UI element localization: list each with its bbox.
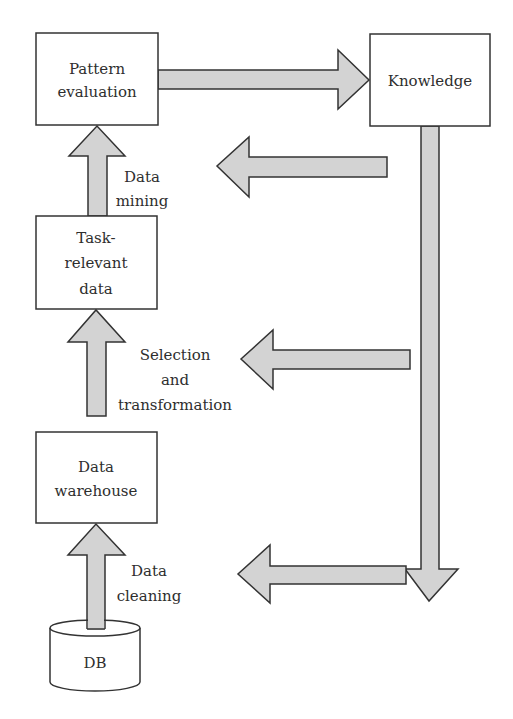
pattern-evaluation-label-1: Pattern [69,60,125,78]
arrow-knowledge-down [405,126,458,601]
arrow-selection-transformation [68,310,125,416]
data-cleaning-label-1: Data [131,562,167,580]
arrow-feedback-3 [238,545,406,603]
data-cleaning-label-2: cleaning [117,587,182,605]
arrow-data-cleaning [68,524,125,629]
knowledge-label: Knowledge [388,72,473,90]
data-warehouse-label-1: Data [78,458,114,476]
arrow-evaluation-to-knowledge [158,50,369,109]
box-pattern-evaluation [36,33,158,125]
kdd-process-diagram: Pattern evaluation Knowledge Task- relev… [0,0,513,719]
data-warehouse-label-2: warehouse [55,482,138,500]
task-relevant-label-2: relevant [65,254,128,272]
task-relevant-label-3: data [79,280,113,298]
arrow-feedback-2 [241,330,410,389]
task-relevant-label-1: Task- [76,229,115,247]
selection-transformation-label-2: and [161,371,190,389]
db-label: DB [83,654,106,672]
pattern-evaluation-label-2: evaluation [57,83,137,101]
selection-transformation-label-3: transformation [118,396,232,414]
data-mining-label-2: mining [116,192,169,210]
arrow-feedback-1 [217,137,387,197]
data-mining-label-1: Data [124,168,160,186]
selection-transformation-label-1: Selection [140,346,211,364]
box-data-warehouse [36,432,157,523]
